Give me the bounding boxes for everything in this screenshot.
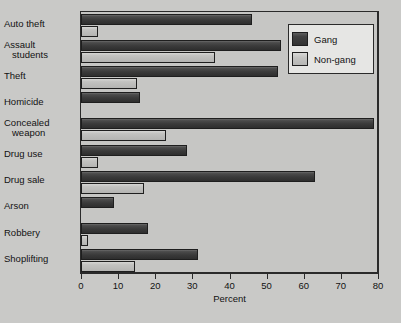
legend-swatch-gang-icon	[292, 32, 308, 46]
category-label-4: Concealed weapon	[0, 118, 74, 139]
x-axis-title: Percent	[80, 293, 379, 304]
x-tick-mark-0	[81, 274, 82, 279]
bar-non-gang-5	[81, 157, 98, 168]
x-tick-label-7: 70	[336, 280, 347, 291]
x-axis: Percent 01020304050607080	[80, 274, 379, 304]
bar-non-gang-8	[81, 235, 88, 246]
x-tick-mark-6	[304, 274, 305, 279]
legend-label-nongang: Non-gang	[314, 54, 356, 65]
legend-item-gang: Gang	[292, 29, 370, 49]
x-tick-label-8: 80	[373, 280, 384, 291]
bar-gang-6	[81, 171, 315, 182]
bar-gang-4	[81, 118, 374, 129]
x-tick-mark-2	[155, 274, 156, 279]
x-tick-label-6: 60	[298, 280, 309, 291]
x-tick-label-0: 0	[78, 280, 83, 291]
chart-figure: Auto theftAssault studentsTheftHomicideC…	[0, 0, 401, 323]
x-tick-label-4: 40	[224, 280, 235, 291]
bar-non-gang-9	[81, 261, 135, 272]
x-tick-label-1: 10	[113, 280, 124, 291]
bar-gang-9	[81, 249, 198, 260]
category-label-5: Drug use	[0, 149, 74, 160]
x-tick-mark-1	[118, 274, 119, 279]
bar-gang-7	[81, 197, 114, 208]
category-label-9: Shoplifting	[0, 254, 74, 265]
bar-non-gang-6	[81, 183, 144, 194]
category-label-6: Drug sale	[0, 175, 74, 186]
category-label-7: Arson	[0, 201, 74, 212]
x-tick-mark-3	[192, 274, 193, 279]
category-label-0: Auto theft	[0, 19, 74, 30]
category-axis-labels: Auto theftAssault studentsTheftHomicideC…	[0, 11, 78, 274]
bar-gang-3	[81, 92, 140, 103]
chart-legend: GangNon-gang	[288, 24, 374, 74]
x-tick-mark-5	[267, 274, 268, 279]
x-tick-label-2: 20	[150, 280, 161, 291]
x-tick-mark-7	[341, 274, 342, 279]
bar-non-gang-2	[81, 78, 137, 89]
bar-gang-2	[81, 66, 278, 77]
x-tick-mark-8	[378, 274, 379, 279]
bar-non-gang-4	[81, 130, 166, 141]
legend-swatch-nongang-icon	[292, 52, 308, 66]
bar-gang-5	[81, 145, 187, 156]
bar-gang-0	[81, 14, 252, 25]
x-tick-label-3: 30	[187, 280, 198, 291]
bar-gang-8	[81, 223, 148, 234]
bar-gang-1	[81, 40, 281, 51]
legend-item-nongang: Non-gang	[292, 49, 370, 69]
x-tick-mark-4	[230, 274, 231, 279]
category-label-2: Theft	[0, 71, 74, 82]
category-label-8: Robbery	[0, 228, 74, 239]
category-label-3: Homicide	[0, 97, 74, 108]
bar-non-gang-0	[81, 26, 98, 37]
legend-label-gang: Gang	[314, 34, 337, 45]
x-tick-label-5: 50	[261, 280, 272, 291]
bar-non-gang-1	[81, 52, 215, 63]
category-label-1: Assault students	[0, 40, 74, 61]
